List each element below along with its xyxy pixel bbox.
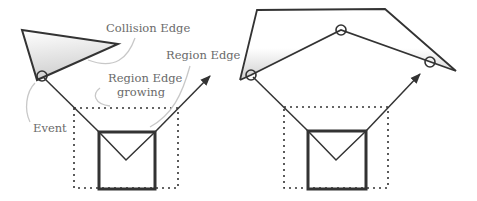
- label-region-edge: Region Edge: [166, 48, 241, 62]
- label-event: Event: [33, 121, 67, 135]
- region-bounding-box-right: [284, 107, 388, 188]
- label-region-edge-growing-2: growing: [117, 85, 166, 99]
- region-edge-arrow-right-panel: [366, 74, 420, 131]
- leader-region-edge-growing: [95, 88, 110, 106]
- collision-obstacle-triangle: [22, 30, 118, 80]
- region-bounding-box: [74, 108, 178, 188]
- right-panel: [240, 9, 456, 189]
- label-region-edge-growing-1: Region Edge: [108, 71, 183, 85]
- diagram-canvas: Collision Edge Region Edge Region Edge g…: [0, 0, 477, 201]
- diagram-svg: Collision Edge Region Edge Region Edge g…: [0, 0, 477, 201]
- v-shape: [99, 132, 155, 160]
- region-edge-left-right-panel: [253, 77, 308, 131]
- left-panel: Collision Edge Region Edge Region Edge g…: [22, 21, 241, 189]
- label-collision-edge: Collision Edge: [106, 21, 190, 35]
- collision-obstacle-polygon: [240, 9, 456, 80]
- v-shape-right: [308, 131, 366, 160]
- leader-event: [27, 83, 35, 122]
